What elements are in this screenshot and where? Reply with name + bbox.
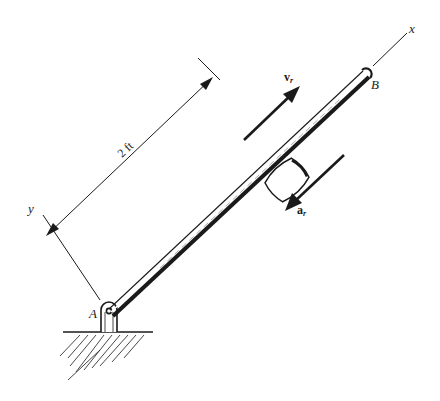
ground-support <box>60 332 153 380</box>
y-axis-label: y <box>26 201 34 216</box>
velocity-label: vr <box>284 70 294 85</box>
sliding-collar <box>261 155 312 206</box>
rod-ab <box>109 68 372 316</box>
acceleration-label: ar <box>297 203 307 218</box>
pin-icon <box>106 308 111 313</box>
y-axis: y <box>26 201 100 300</box>
point-a-label: A <box>88 306 97 321</box>
point-b-label: B <box>371 77 379 92</box>
velocity-arrow: vr <box>244 70 300 140</box>
rod-collar-diagram: x y 2 ft vr ar A B <box>0 0 440 401</box>
dimension-line: 2 ft <box>46 58 220 236</box>
x-axis-label: x <box>408 21 415 36</box>
dimension-label: 2 ft <box>114 138 136 160</box>
x-axis: x <box>373 21 415 66</box>
